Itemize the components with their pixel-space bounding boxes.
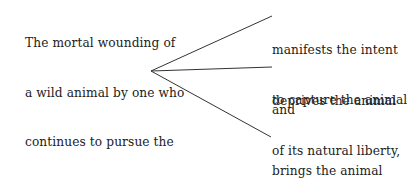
branch-line-3 <box>151 71 271 137</box>
branch-line: manifests the intent <box>272 42 407 59</box>
branch-line-2 <box>151 67 272 71</box>
branch-line-1 <box>151 16 272 71</box>
branch-line: brings the animal <box>272 163 407 178</box>
branch-3-text: brings the animal within certain control… <box>272 130 407 178</box>
connector-and: and <box>272 102 295 119</box>
